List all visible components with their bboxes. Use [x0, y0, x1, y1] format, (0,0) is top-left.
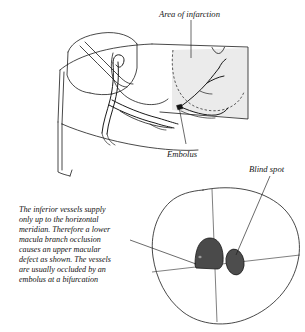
caption-line: macula branch occlusion — [19, 235, 101, 244]
retina-fold-left-edge — [67, 52, 90, 93]
retinal-branch-occlusion-figure: Area of infarction Embolus Blind spot Th… — [0, 0, 305, 332]
retina-sheet-left-vertical — [58, 70, 60, 122]
area-of-infarction-label: Area of infarction — [158, 9, 220, 19]
retina-strap-left — [80, 46, 127, 87]
caption-line: embolus at a bifurcation — [19, 275, 98, 284]
retina-fold-upper-left — [68, 33, 137, 52]
retina-sheet-bottom-sweep — [62, 124, 198, 150]
retina-sheet-diagram — [58, 20, 248, 176]
retina-lower-fold-marks — [70, 170, 72, 176]
caption-line: meridian. Therefore a lower — [19, 225, 111, 234]
visual-field-diagram — [130, 176, 300, 324]
caption-line: are usually occluded by an — [19, 265, 106, 274]
retina-fold-bottom — [90, 93, 112, 95]
macular-defect-fleck — [198, 256, 201, 258]
vessel-trunk-upper-pair — [107, 62, 118, 134]
blind-spot-shape — [224, 248, 246, 276]
caption-line: The inferior vessels supply — [19, 205, 106, 214]
blind-spot-label: Blind spot — [249, 164, 285, 174]
caption-pointer-line — [130, 240, 196, 264]
retina-sheet-left-vertical-inner — [62, 72, 64, 124]
retina-bowl-curve — [111, 53, 168, 105]
caption-block: The inferior vessels supply only up to t… — [19, 205, 111, 284]
embolus-label: Embolus — [166, 149, 198, 159]
retina-sheet-main-outline — [60, 44, 152, 70]
caption-line: causes an upper macular — [19, 245, 101, 254]
vessel-inferior-arcade-pair — [109, 105, 174, 128]
macular-defect-shape — [195, 238, 223, 269]
blind-spot-leader-line — [236, 176, 270, 255]
caption-line: only up to the horizontal — [19, 215, 99, 224]
retina-sheet-bottom-sweep-lower — [58, 122, 70, 176]
retina-strap-right — [85, 42, 133, 84]
caption-line: defect as shown. The vessels — [19, 255, 111, 264]
